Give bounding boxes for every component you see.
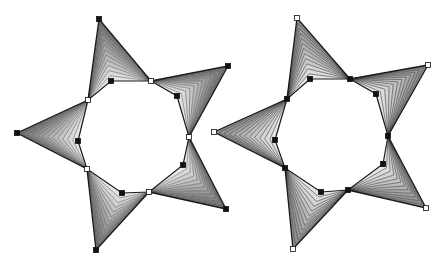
closed-node-handle[interactable] [283, 166, 288, 171]
open-node-handle[interactable] [86, 98, 91, 103]
left-star [15, 17, 231, 253]
diagram-canvas [0, 0, 445, 266]
star-arm [285, 168, 348, 249]
closed-node-handle[interactable] [285, 97, 290, 102]
star-arm [151, 66, 228, 137]
open-node-handle[interactable] [295, 16, 300, 21]
star-arm [17, 100, 88, 169]
star-arm [214, 99, 287, 168]
open-node-handle[interactable] [426, 63, 431, 68]
closed-node-handle[interactable] [386, 134, 391, 139]
closed-node-handle[interactable] [319, 190, 324, 195]
closed-node-handle[interactable] [175, 94, 180, 99]
closed-node-handle[interactable] [381, 162, 386, 167]
closed-node-handle[interactable] [109, 79, 114, 84]
closed-node-handle[interactable] [346, 188, 351, 193]
star-arm [87, 169, 149, 250]
open-node-handle[interactable] [147, 190, 152, 195]
closed-node-handle[interactable] [120, 191, 125, 196]
star-arm [149, 137, 226, 209]
star-blend-diagram [0, 0, 445, 266]
open-node-handle[interactable] [149, 79, 154, 84]
closed-node-handle[interactable] [97, 17, 102, 22]
star-arm [88, 19, 151, 100]
closed-node-handle[interactable] [224, 207, 229, 212]
closed-node-handle[interactable] [308, 77, 313, 82]
star-arm [350, 65, 428, 136]
closed-node-handle[interactable] [94, 248, 99, 253]
open-node-handle[interactable] [85, 167, 90, 172]
closed-node-handle[interactable] [15, 131, 20, 136]
open-node-handle[interactable] [424, 206, 429, 211]
open-node-handle[interactable] [187, 135, 192, 140]
closed-node-handle[interactable] [273, 138, 278, 143]
closed-node-handle[interactable] [348, 77, 353, 82]
closed-node-handle[interactable] [226, 64, 231, 69]
closed-node-handle[interactable] [374, 92, 379, 97]
open-node-handle[interactable] [291, 247, 296, 252]
closed-node-handle[interactable] [181, 163, 186, 168]
star-arm [287, 18, 350, 99]
open-node-handle[interactable] [212, 130, 217, 135]
star-arm [348, 136, 426, 208]
right-star [212, 16, 431, 252]
closed-node-handle[interactable] [76, 139, 81, 144]
